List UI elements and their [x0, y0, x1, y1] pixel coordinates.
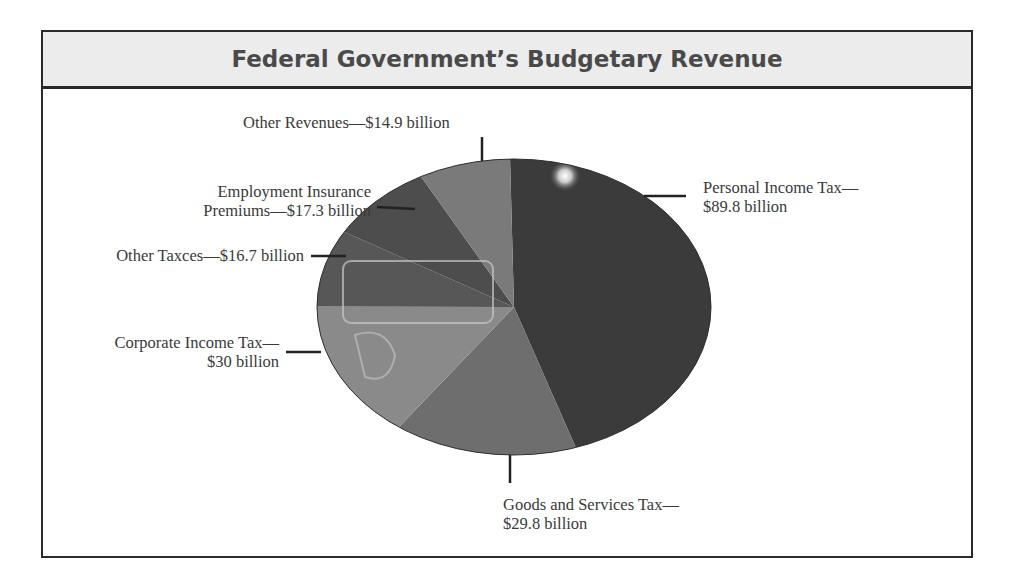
label-corporate-income-tax: Corporate Income Tax— $30 billion: [115, 333, 279, 371]
label-goods-services-tax: Goods and Services Tax— $29.8 billion: [503, 495, 679, 533]
label-line: Personal Income Tax—: [703, 178, 858, 197]
chart-frame: Federal Government’s Budgetary Revenue: [41, 30, 973, 558]
label-line: Other Revenues—$14.9 billion: [243, 113, 450, 132]
label-personal-income-tax: Personal Income Tax— $89.8 billion: [703, 178, 858, 216]
label-line: Goods and Services Tax—: [503, 495, 679, 514]
label-line: Employment Insurance: [203, 182, 371, 201]
label-value: $89.8 billion: [703, 197, 858, 216]
label-other-revenues: Other Revenues—$14.9 billion: [243, 113, 450, 132]
label-employment-insurance: Employment Insurance Premiums—$17.3 bill…: [203, 182, 371, 220]
chart-area: Personal Income Tax— $89.8 billion Goods…: [43, 89, 971, 556]
chart-title: Federal Government’s Budgetary Revenue: [231, 46, 782, 72]
title-bar: Federal Government’s Budgetary Revenue: [43, 32, 971, 89]
label-value: $29.8 billion: [503, 514, 679, 533]
pie-chart: [43, 89, 971, 556]
label-other-taxes: Other Taxces—$16.7 billion: [116, 246, 304, 265]
label-line: Corporate Income Tax—: [115, 333, 279, 352]
label-value: $30 billion: [115, 352, 279, 371]
label-line: Other Taxces—$16.7 billion: [116, 246, 304, 265]
label-value: Premiums—$17.3 billion: [203, 201, 371, 220]
